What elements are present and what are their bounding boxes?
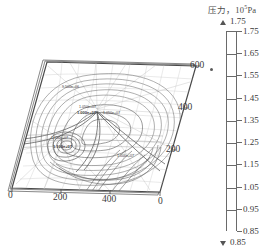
contour-label-7: 1.000e+07 xyxy=(117,154,134,158)
colorbar-segment-2 xyxy=(227,76,236,98)
colorbar-tick-3 xyxy=(237,98,242,99)
colorbar-tick-1 xyxy=(237,53,242,54)
colorbar-segment-5 xyxy=(227,143,236,165)
axis-tick-x-400: 400 xyxy=(102,194,116,204)
colorbar-tick-4 xyxy=(237,120,242,121)
colorbar-tick-6 xyxy=(237,164,242,165)
colorbar-tick-label-8: 0.95 xyxy=(243,204,259,214)
contour-plot: 0 200 400 0 600 400 200 9.500e+06 1.050e… xyxy=(0,52,206,212)
colorbar-divider-1 xyxy=(227,54,236,55)
axis-tick-x-0: 0 xyxy=(8,190,13,200)
colorbar-tick-label-3: 1.45 xyxy=(243,93,259,103)
colorbar-title-text: 压力，10 xyxy=(208,5,245,15)
colorbar-tick-8 xyxy=(237,209,242,210)
colorbar-tick-label-5: 1.25 xyxy=(243,137,259,147)
colorbar-segment-3 xyxy=(227,99,236,121)
colorbar-tick-9 xyxy=(237,231,242,232)
contour-label-5: 1.150e+07 xyxy=(51,136,68,140)
figure-root: 0 200 400 0 600 400 200 9.500e+06 1.050e… xyxy=(0,0,268,252)
colorbar-gradient-box xyxy=(226,31,237,231)
colorbar-tick-label-4: 1.35 xyxy=(243,115,259,125)
colorbar-tick-label-9: 0.85 xyxy=(243,226,259,236)
contour-label-2: 1.050e+07 xyxy=(79,105,96,109)
colorbar-divider-6 xyxy=(227,165,236,166)
contour-plot-svg xyxy=(0,52,206,212)
colorbar-divider-2 xyxy=(227,76,236,77)
colorbar-title-unit: Pa xyxy=(247,5,256,15)
colorbar-divider-7 xyxy=(227,188,236,189)
axis-tick-x-right-0: 0 xyxy=(158,196,163,206)
colorbar-tick-label-6: 1.15 xyxy=(243,159,259,169)
colorbar-divider-3 xyxy=(227,99,236,100)
colorbar-tick-5 xyxy=(237,142,242,143)
axis-tick-x-200: 200 xyxy=(53,192,67,202)
axis-tick-y-200: 200 xyxy=(166,144,180,154)
colorbar-segment-8 xyxy=(227,210,236,232)
colorbar-segment-4 xyxy=(227,121,236,143)
contour-label-4: 1.050e+07 xyxy=(103,111,120,115)
colorbar-panel: 压力，105Pa 1.75 0.85 1.751.651.551.451.351… xyxy=(196,0,268,252)
contour-label-3: 1.000e+07 xyxy=(77,110,96,115)
colorbar-segment-1 xyxy=(227,54,236,76)
colorbar-max-value: 1.75 xyxy=(230,16,246,26)
colorbar-divider-5 xyxy=(227,143,236,144)
colorbar-tick-label-7: 1.05 xyxy=(243,182,259,192)
contour-label-1: 9.500e+06 xyxy=(62,85,79,89)
colorbar-tick-7 xyxy=(237,187,242,188)
colorbar-tick-label-0: 1.75 xyxy=(243,26,259,36)
colorbar-divider-8 xyxy=(227,210,236,211)
colorbar-segment-0 xyxy=(227,32,236,54)
contour-label-6: 1.100e+07 xyxy=(53,144,72,149)
colorbar-min-value: 0.85 xyxy=(230,237,246,247)
colorbar-down-arrow-icon xyxy=(220,241,226,246)
colorbar-tick-2 xyxy=(237,75,242,76)
colorbar-tick-label-1: 1.65 xyxy=(243,48,259,58)
axis-tick-y-400: 400 xyxy=(178,102,192,112)
colorbar-tick-label-2: 1.55 xyxy=(243,70,259,80)
colorbar-up-arrow-icon xyxy=(220,20,226,25)
colorbar-segment-6 xyxy=(227,165,236,187)
colorbar-divider-4 xyxy=(227,121,236,122)
colorbar-tick-0 xyxy=(237,31,242,32)
colorbar-title: 压力，105Pa xyxy=(196,3,268,15)
colorbar-segment-7 xyxy=(227,188,236,210)
